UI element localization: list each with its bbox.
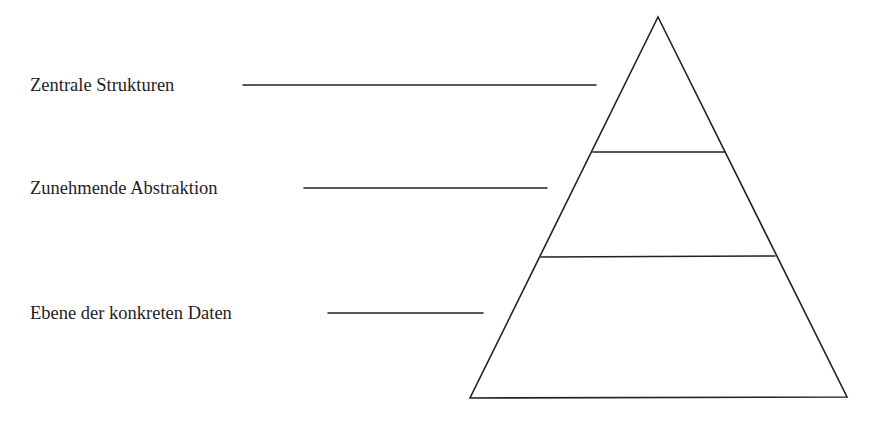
pyramid-graphic <box>0 0 882 421</box>
pyramid-divider-lower <box>541 256 775 257</box>
pyramid-outline <box>470 17 847 398</box>
